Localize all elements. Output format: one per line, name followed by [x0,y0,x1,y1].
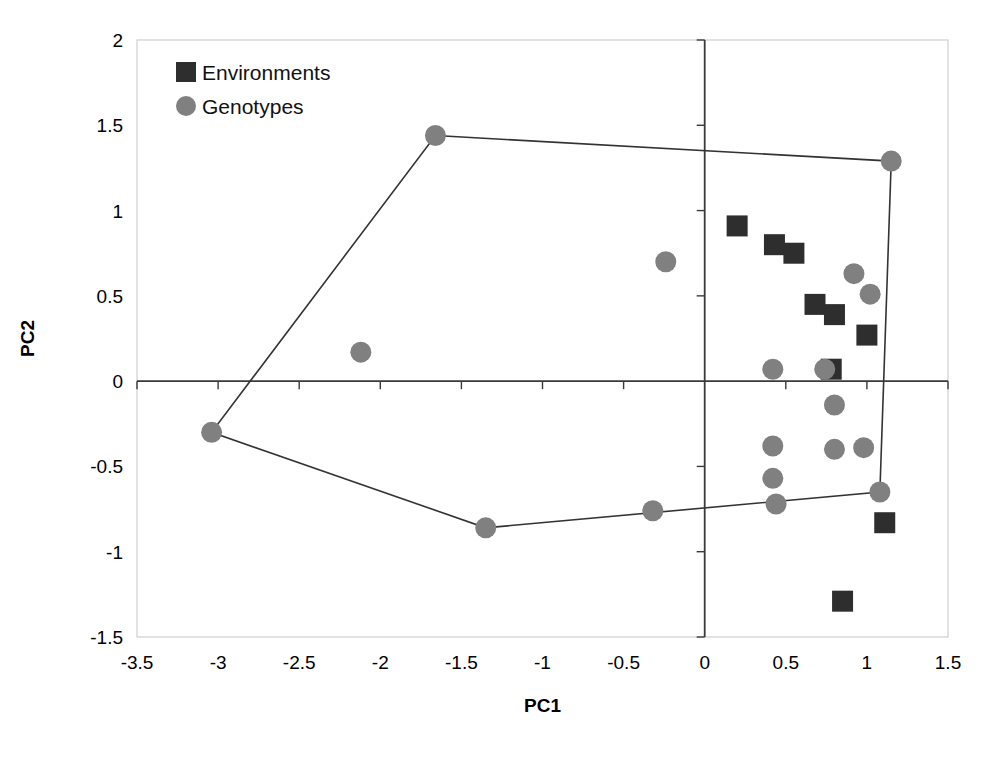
data-point-environment[interactable] [804,294,825,315]
y-axis-title: PC2 [17,320,38,357]
data-point-genotype[interactable] [814,359,835,380]
plot-frame [137,40,948,637]
y-tick-label: 0.5 [97,286,123,307]
data-point-genotype[interactable] [766,493,787,514]
chart-root: -3.5-3-2.5-2-1.5-1-0.500.511.521.510.50-… [0,0,987,763]
data-point-genotype[interactable] [824,439,845,460]
y-tick-label: -1 [106,542,123,563]
x-tick-label: 0 [699,652,710,673]
data-point-genotype[interactable] [860,284,881,305]
x-tick-label: -1.5 [445,652,478,673]
x-tick-label: 1 [862,652,873,673]
x-tick-label: -3 [210,652,227,673]
y-tick-label: 1 [112,201,123,222]
y-tick-label: -1.5 [90,627,123,648]
legend-swatch-environments [176,62,196,82]
x-tick-label: 0.5 [773,652,799,673]
data-point-environment[interactable] [727,215,748,236]
data-point-environment[interactable] [856,325,877,346]
data-point-genotype[interactable] [201,422,222,443]
legend-label-genotypes: Genotypes [202,95,304,118]
data-point-genotype[interactable] [843,263,864,284]
data-point-genotype[interactable] [655,251,676,272]
data-point-environment[interactable] [764,234,785,255]
data-point-genotype[interactable] [762,435,783,456]
x-tick-label: -2 [372,652,389,673]
y-tick-label: 2 [112,30,123,51]
legend-swatch-genotypes [176,96,196,116]
x-axis-title: PC1 [524,695,561,716]
x-tick-label: -2.5 [283,652,316,673]
data-point-genotype[interactable] [642,500,663,521]
data-point-environment[interactable] [824,304,845,325]
x-tick-label: 1.5 [935,652,961,673]
data-point-environment[interactable] [832,591,853,612]
data-point-genotype[interactable] [475,517,496,538]
data-point-genotype[interactable] [425,125,446,146]
data-point-genotype[interactable] [824,395,845,416]
legend-label-environments: Environments [202,61,330,84]
scatter-plot: -3.5-3-2.5-2-1.5-1-0.500.511.521.510.50-… [0,0,987,763]
y-tick-label: 0 [112,371,123,392]
y-tick-label: 1.5 [97,115,123,136]
x-tick-label: -0.5 [607,652,640,673]
data-point-genotype[interactable] [350,342,371,363]
data-point-environment[interactable] [874,512,895,533]
data-point-genotype[interactable] [881,151,902,172]
x-tick-label: -3.5 [121,652,154,673]
data-point-genotype[interactable] [762,359,783,380]
data-point-genotype[interactable] [869,482,890,503]
x-tick-label: -1 [534,652,551,673]
chart-canvas: -3.5-3-2.5-2-1.5-1-0.500.511.521.510.50-… [0,0,987,763]
data-point-genotype[interactable] [853,437,874,458]
data-point-environment[interactable] [783,243,804,264]
data-point-genotype[interactable] [762,468,783,489]
y-tick-label: -0.5 [90,456,123,477]
